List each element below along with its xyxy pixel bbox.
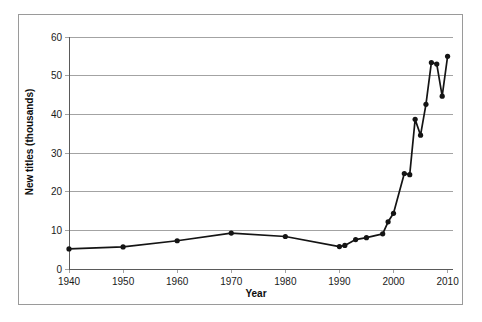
data-point-marker: [337, 244, 342, 249]
data-point-marker: [66, 246, 71, 251]
y-tick-label: 30: [51, 148, 63, 159]
data-point-marker: [445, 54, 450, 59]
data-point-marker: [380, 231, 385, 236]
data-point-marker: [175, 238, 180, 243]
data-point-marker: [402, 171, 407, 176]
y-tick-label: 40: [51, 109, 63, 120]
x-tick-label: 1950: [112, 276, 135, 287]
y-tick-label: 0: [56, 264, 62, 275]
axis-ticks: [65, 37, 448, 273]
data-point-marker: [440, 94, 445, 99]
x-tick-label: 1970: [220, 276, 243, 287]
y-axis-tick-labels: 0102030405060: [51, 32, 63, 275]
data-point-marker: [413, 117, 418, 122]
x-tick-label: 2010: [436, 276, 459, 287]
data-point-marker: [283, 234, 288, 239]
data-point-marker: [391, 211, 396, 216]
chart-frame: 0102030405060 19401950196019701980199020…: [18, 14, 463, 305]
y-tick-label: 10: [51, 225, 63, 236]
data-point-marker: [229, 230, 234, 235]
data-point-marker: [342, 243, 347, 248]
data-point-marker: [386, 219, 391, 224]
x-tick-label: 2000: [382, 276, 405, 287]
data-point-marker: [364, 235, 369, 240]
line-chart-canvas: 0102030405060 19401950196019701980199020…: [19, 15, 462, 304]
data-point-marker: [353, 237, 358, 242]
chart-figure: 0102030405060 19401950196019701980199020…: [0, 0, 482, 322]
x-axis-tick-labels: 19401950196019701980199020002010: [58, 276, 459, 287]
data-point-marker: [423, 102, 428, 107]
x-tick-label: 1980: [274, 276, 297, 287]
y-axis-title: New titles (thousands): [24, 89, 35, 196]
data-point-marker: [120, 244, 125, 249]
x-tick-label: 1960: [166, 276, 189, 287]
y-tick-label: 60: [51, 32, 63, 43]
y-tick-label: 20: [51, 186, 63, 197]
data-point-marker: [407, 172, 412, 177]
x-tick-label: 1940: [58, 276, 81, 287]
data-point-marker: [418, 133, 423, 138]
data-point-marker: [434, 61, 439, 66]
data-point-marker: [429, 60, 434, 65]
y-tick-label: 50: [51, 70, 63, 81]
x-tick-label: 1990: [328, 276, 351, 287]
x-axis-title: Year: [245, 288, 266, 299]
